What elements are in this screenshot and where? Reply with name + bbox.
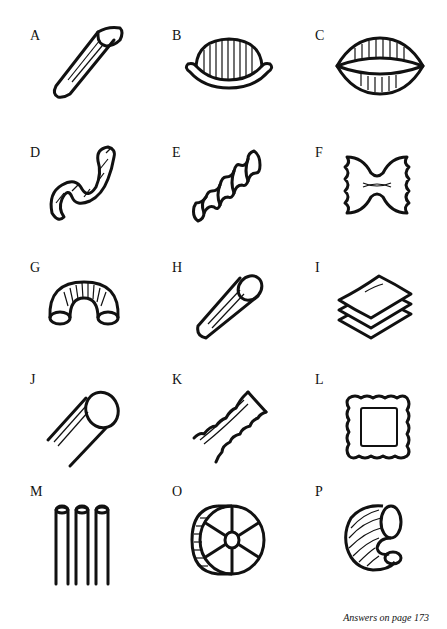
label-m: M [30, 484, 42, 500]
label-p: P [315, 484, 323, 500]
item-o: O [172, 484, 312, 604]
item-c: C [315, 28, 447, 148]
label-d: D [30, 145, 40, 161]
rotelle-icon [190, 504, 266, 576]
elbow-macaroni-icon [46, 278, 122, 328]
tube-pasta-icon [194, 274, 266, 344]
label-c: C [315, 28, 324, 44]
item-l: L [315, 372, 447, 492]
label-i: I [315, 260, 320, 276]
item-f: F [315, 145, 447, 265]
item-g: G [30, 260, 170, 380]
penne-icon [48, 24, 128, 104]
label-a: A [30, 28, 40, 44]
lasagne-sheets-icon [337, 274, 415, 340]
label-l: L [315, 372, 324, 388]
item-m: M [30, 484, 170, 604]
label-h: H [172, 260, 182, 276]
item-i: I [315, 260, 447, 380]
cannelloni-icon [46, 390, 122, 468]
item-a: A [30, 28, 170, 148]
item-b: B [172, 28, 312, 148]
conchiglie-icon [335, 36, 425, 96]
item-j: J [30, 372, 170, 492]
item-k: K [172, 372, 312, 492]
label-j: J [30, 372, 35, 388]
label-k: K [172, 372, 182, 388]
label-f: F [315, 145, 323, 161]
item-d: D [30, 145, 170, 265]
label-g: G [30, 260, 40, 276]
spiral-ribbon-icon [46, 143, 126, 228]
answers-note: Answers on page 173 [343, 612, 429, 623]
tagliatelle-icon [192, 386, 268, 466]
bucatini-icon [52, 504, 108, 586]
label-b: B [172, 28, 181, 44]
label-e: E [172, 145, 181, 161]
item-h: H [172, 260, 312, 380]
farfalle-icon [337, 153, 417, 217]
label-o: O [172, 484, 182, 500]
fusilli-icon [190, 147, 270, 227]
orecchiette-icon [184, 36, 274, 96]
item-e: E [172, 145, 312, 265]
item-p: P [315, 484, 447, 604]
ravioli-icon [345, 394, 411, 460]
lumache-icon [343, 502, 405, 574]
